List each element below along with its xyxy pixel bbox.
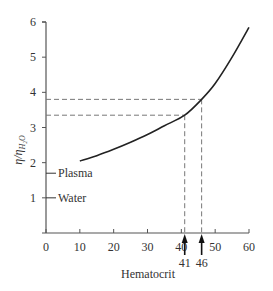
axes: 1234560102030405060 [30, 15, 255, 254]
x-tick-label: 10 [74, 240, 86, 254]
reference-label-water: Water [58, 191, 86, 205]
reference-label-plasma: Plasma [58, 166, 93, 180]
y-axis-label: η/ηH₂O [11, 135, 27, 165]
reference-levels: PlasmaWater [46, 166, 93, 205]
x-tick-label: 20 [108, 240, 120, 254]
x-tick-label: 50 [209, 240, 221, 254]
y-tick-label: 5 [30, 50, 36, 64]
arrow-label: 46 [196, 256, 208, 270]
arrow-up-icon [182, 234, 188, 243]
y-tick-label: 2 [30, 156, 36, 170]
x-tick-label: 60 [243, 240, 255, 254]
y-tick-label: 1 [30, 191, 36, 205]
y-tick-label: 4 [30, 85, 36, 99]
viscosity-chart: 1234560102030405060 PlasmaWater 4146 η/η… [0, 0, 273, 291]
arrow-up-icon [199, 234, 205, 243]
x-tick-label: 0 [43, 240, 49, 254]
y-tick-label: 6 [30, 15, 36, 29]
y-tick-label: 3 [30, 121, 36, 135]
x-tick-label: 30 [142, 240, 154, 254]
viscosity-curve [80, 27, 249, 161]
arrow-label: 41 [179, 256, 191, 270]
x-axis-label: Hematocrit [121, 267, 176, 281]
